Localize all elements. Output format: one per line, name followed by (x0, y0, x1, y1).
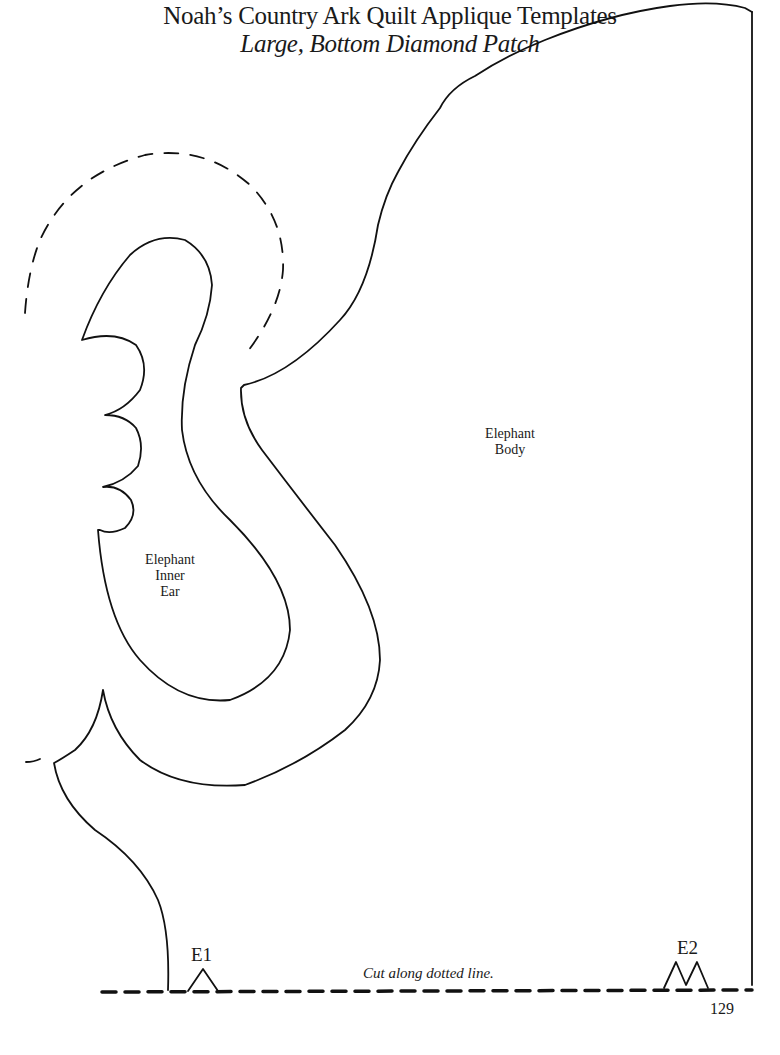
elephant-inner-ear-label: Elephant Inner Ear (130, 552, 210, 600)
notch-e1-triangle (188, 969, 218, 991)
page-number: 129 (710, 1000, 734, 1018)
notch-e2-double-triangle (664, 962, 708, 988)
elephant-body-label: Elephant Body (470, 426, 550, 458)
elephant-body-outline (54, 3, 752, 990)
ear-label-line-2: Inner (130, 568, 210, 584)
seam-allowance-dashed-lower (26, 759, 40, 762)
body-label-line-1: Elephant (470, 426, 550, 442)
ear-label-line-1: Elephant (130, 552, 210, 568)
elephant-inner-ear-outline (82, 238, 290, 701)
cut-dotted-line (102, 990, 752, 992)
notch-label-e2: E2 (677, 937, 698, 959)
cut-instruction: Cut along dotted line. (363, 965, 494, 982)
body-label-line-2: Body (470, 442, 550, 458)
template-drawing (0, 0, 780, 1055)
notch-label-e1: E1 (191, 944, 212, 966)
ear-label-line-3: Ear (130, 584, 210, 600)
seam-allowance-dashed (25, 153, 283, 355)
